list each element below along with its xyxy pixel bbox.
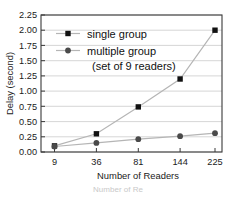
data-point-multiple-81: [135, 136, 141, 142]
legend-label-multiple-group-note: (set of 9 readers): [92, 60, 176, 72]
data-point-multiple-144: [177, 133, 183, 139]
x-axis-title: Number of Readers: [97, 170, 179, 181]
y-tick-label-8: 2.00: [19, 25, 37, 35]
legend-marker-circle-icon: [65, 48, 71, 54]
figure-container: 0.00 0.25 0.50 0.75 1.00 1.25 1.50 1.75 …: [0, 0, 237, 197]
y-tick-label-1: 0.25: [19, 132, 37, 142]
x-tick-label-0: 9: [52, 157, 57, 167]
data-point-single-225: [212, 28, 217, 33]
x-tick-label-2: 81: [133, 157, 143, 167]
y-tick-label-7: 1.75: [19, 41, 37, 51]
data-point-single-144: [177, 76, 182, 81]
y-tick-label-5: 1.25: [19, 71, 37, 81]
data-point-multiple-225: [212, 130, 218, 136]
legend-label-multiple-group: multiple group: [87, 45, 156, 57]
x-tick-label-3: 144: [172, 157, 187, 167]
data-point-single-81: [136, 104, 141, 109]
y-tick-label-6: 1.50: [19, 56, 37, 66]
y-tick-label-4: 1.00: [19, 86, 37, 96]
data-point-multiple-9: [52, 144, 58, 150]
legend-marker-square-icon: [65, 31, 70, 36]
y-tick-label-0: 0.00: [19, 147, 37, 157]
x-tick-label-4: 225: [207, 157, 222, 167]
x-tick-label-1: 36: [91, 157, 101, 167]
y-tick-label-3: 0.75: [19, 102, 37, 112]
data-point-single-36: [94, 131, 99, 136]
data-point-multiple-36: [94, 140, 100, 146]
y-axis-tick-labels: 0.00 0.25 0.50 0.75 1.00 1.25 1.50 1.75 …: [19, 10, 37, 157]
y-axis-title: Delay (second): [4, 52, 15, 115]
legend-label-single-group: single group: [87, 28, 147, 40]
delay-vs-readers-line-chart: 0.00 0.25 0.50 0.75 1.00 1.25 1.50 1.75 …: [0, 0, 237, 197]
partial-caption-text: Number of Re: [93, 185, 143, 194]
y-tick-label-2: 0.50: [19, 117, 37, 127]
x-axis-tick-labels: 9 36 81 144 225: [52, 157, 223, 167]
y-tick-label-9: 2.25: [19, 10, 37, 20]
